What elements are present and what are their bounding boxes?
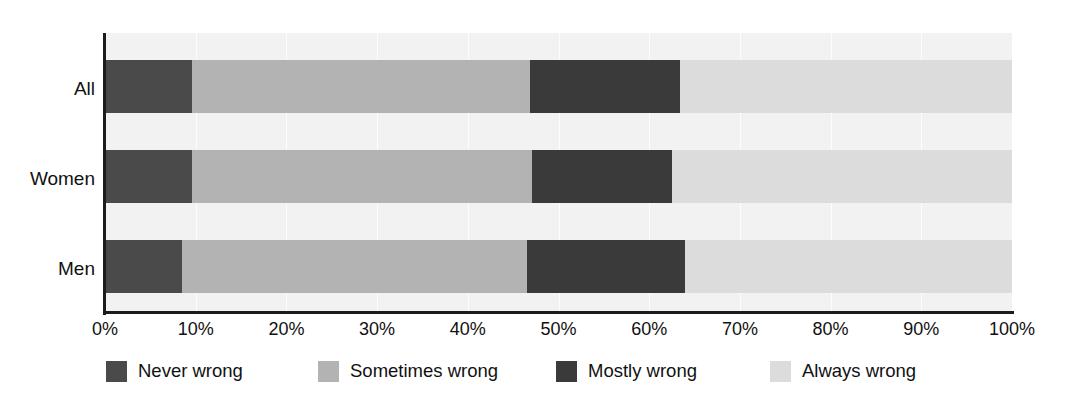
y-axis-tick-label-men: Men [3,259,95,278]
bar-segment [192,60,530,113]
bar-segment [680,60,1012,113]
stacked-bar-chart: All Women Men 0%10%20%30%40%50%60%70%80%… [0,0,1066,409]
bar-row [105,60,1012,113]
legend-label: Sometimes wrong [350,362,498,381]
gridline [1012,33,1013,313]
legend-swatch-icon [318,361,339,382]
bar-segment [105,240,182,293]
legend-label: Mostly wrong [588,362,697,381]
x-axis-tick-label: 0% [92,320,118,338]
chart-legend: Never wrong Sometimes wrong Mostly wrong… [0,358,1066,392]
bar-segment [192,150,532,203]
legend-item-mostly-wrong: Mostly wrong [556,358,697,384]
x-axis-tick-label: 60% [631,320,667,338]
bar-segment [685,240,1012,293]
x-axis-tick-label: 100% [989,320,1035,338]
x-axis-tick-labels: 0%10%20%30%40%50%60%70%80%90%100% [0,320,1066,346]
x-axis-tick-label: 20% [268,320,304,338]
legend-item-never-wrong: Never wrong [106,358,243,384]
plot-area [105,33,1012,313]
legend-swatch-icon [770,361,791,382]
bar-row [105,240,1012,293]
bar-segment [672,150,1012,203]
legend-swatch-icon [556,361,577,382]
x-axis-tick-label: 40% [450,320,486,338]
x-axis-line [103,311,1014,314]
legend-label: Never wrong [138,362,243,381]
bar-segment [105,150,192,203]
legend-label: Always wrong [802,362,916,381]
bar-segment [182,240,527,293]
y-axis-tick-label-all: All [3,79,95,98]
bar-row [105,150,1012,203]
x-axis-tick-label: 70% [722,320,758,338]
y-axis-tick-label-women: Women [3,169,95,188]
x-axis-tick-label: 30% [359,320,395,338]
x-axis-tick-label: 90% [903,320,939,338]
bar-segment [532,150,672,203]
legend-item-always-wrong: Always wrong [770,358,916,384]
y-axis-tick-labels: All Women Men [0,33,95,313]
y-axis-line [103,33,106,315]
bar-segment [527,240,685,293]
legend-swatch-icon [106,361,127,382]
x-axis-tick-label: 10% [178,320,214,338]
legend-item-sometimes-wrong: Sometimes wrong [318,358,498,384]
x-axis-tick-label: 80% [813,320,849,338]
bar-segment [530,60,680,113]
x-axis-tick-label: 50% [540,320,576,338]
bar-segment [105,60,192,113]
